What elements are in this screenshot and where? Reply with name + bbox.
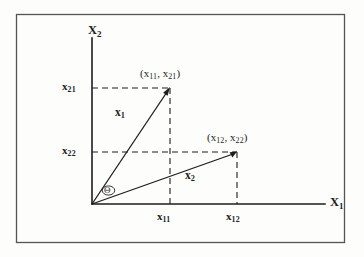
x-tick-label-left: x11 [157, 211, 170, 224]
point-2-comma: , x [224, 131, 235, 143]
y-axis-label-text: X [88, 23, 97, 37]
point-2-close: ) [244, 131, 248, 143]
x-axis-label-text: X [330, 195, 339, 209]
y-tick-label-upper: x21 [62, 81, 76, 94]
y-tick-label-lower: x22 [62, 145, 76, 158]
figure-container: X2 X1 x21 x22 x11 x12 (x11, x21) (x12, x… [0, 0, 364, 257]
y-axis-label: X2 [88, 24, 102, 39]
vector-2-label: x2 [185, 170, 195, 184]
figure-border [17, 15, 345, 243]
point-label-2: (x12, x22) [207, 132, 247, 145]
vector-1-label-subscript: 1 [121, 111, 125, 120]
point-2-subscript-b: 22 [235, 136, 243, 145]
vector-diagram-svg [0, 0, 364, 257]
x-axis-label: X1 [330, 196, 344, 211]
point-2-open: (x [207, 131, 216, 143]
point-1-open: (x [140, 67, 149, 79]
y-tick-lower-subscript: 22 [68, 149, 76, 158]
vector-2-label-subscript: 2 [191, 174, 195, 183]
point-1-close: ) [177, 67, 181, 79]
y-tick-upper-subscript: 21 [68, 85, 76, 94]
point-1-subscript-a: 11 [149, 72, 157, 81]
vector-2-shaft [92, 154, 233, 204]
point-label-1: (x11, x21) [140, 68, 180, 81]
point-1-comma: , x [157, 67, 168, 79]
y-axis-label-subscript: 2 [97, 29, 102, 39]
point-1-subscript-b: 21 [168, 72, 176, 81]
x-tick-right-subscript: 12 [232, 215, 240, 224]
x-axis-label-subscript: 1 [339, 201, 344, 211]
x-tick-label-right: x12 [226, 211, 240, 224]
theta-symbol: Θ [104, 186, 111, 195]
x-tick-left-subscript: 11 [163, 215, 171, 224]
vector-1-label: x1 [115, 107, 125, 121]
